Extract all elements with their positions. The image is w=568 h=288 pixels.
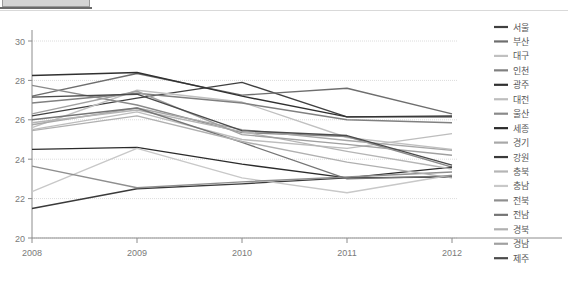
- x-tick-label-2008: 2008: [22, 248, 42, 258]
- legend-label-전남: 전남: [513, 210, 529, 220]
- y-tick-label-28: 28: [15, 76, 25, 86]
- legend-label-서울: 서울: [513, 23, 529, 33]
- legend-item-대전[interactable]: 대전: [494, 95, 529, 105]
- series-line-경기: [32, 108, 452, 150]
- y-tick-label-26: 26: [15, 115, 25, 125]
- legend-item-부산[interactable]: 부산: [494, 37, 529, 47]
- series-line-부산: [32, 74, 452, 114]
- legend-item-인천[interactable]: 인천: [494, 66, 529, 76]
- legend-label-충남: 충남: [513, 181, 529, 191]
- x-tick-label-2011: 2011: [337, 248, 356, 258]
- legend-item-경남[interactable]: 경남: [494, 238, 529, 249]
- legend-label-전북: 전북: [513, 196, 529, 206]
- legend-item-경기[interactable]: 경기: [494, 137, 529, 148]
- legend-item-광주[interactable]: 광주: [494, 79, 529, 90]
- legend-label-제주: 제주: [513, 254, 529, 264]
- toolbar-tab-underline: [0, 7, 92, 9]
- legend-label-경남: 경남: [513, 238, 529, 249]
- legend-label-울산: 울산: [513, 109, 529, 119]
- y-tick-label-30: 30: [15, 37, 25, 47]
- legend-label-경북: 경북: [513, 224, 529, 235]
- legend-label-충북: 충북: [513, 167, 529, 177]
- legend-label-인천: 인천: [513, 66, 529, 76]
- line-chart-container: 202224262830 20082009201020112012 서울부산대구…: [0, 11, 568, 288]
- x-axis-tick-labels: 20082009201020112012: [22, 248, 462, 258]
- x-tick-label-2009: 2009: [127, 248, 147, 258]
- line-chart-svg: 202224262830 20082009201020112012 서울부산대구…: [0, 11, 568, 288]
- legend-item-충남[interactable]: 충남: [494, 181, 529, 191]
- legend-item-전북[interactable]: 전북: [494, 196, 529, 206]
- y-axis-tick-labels: 202224262830: [15, 37, 25, 244]
- legend-label-대구: 대구: [513, 51, 529, 61]
- y-tick-label-24: 24: [15, 155, 25, 165]
- axes: [28, 30, 562, 243]
- legend-item-경북[interactable]: 경북: [494, 224, 529, 235]
- legend-label-강원: 강원: [513, 153, 529, 163]
- toolbar-tab-chip[interactable]: [2, 0, 90, 7]
- window-top-strip: [0, 0, 568, 11]
- legend-label-부산: 부산: [513, 37, 529, 47]
- legend-item-울산[interactable]: 울산: [494, 109, 529, 119]
- chart-legend: 서울부산대구인천광주대전울산세종경기강원충북충남전북전남경북경남제주: [494, 23, 529, 264]
- x-tick-label-2012: 2012: [442, 248, 462, 258]
- series-line-경남: [32, 91, 452, 155]
- legend-item-세종[interactable]: 세종: [494, 124, 529, 134]
- series-line-세종: [32, 147, 452, 178]
- legend-label-대전: 대전: [513, 95, 529, 105]
- legend-item-충북[interactable]: 충북: [494, 167, 529, 177]
- legend-label-세종: 세종: [513, 124, 529, 134]
- legend-item-대구[interactable]: 대구: [494, 51, 529, 61]
- legend-item-제주[interactable]: 제주: [494, 254, 529, 264]
- y-tick-label-22: 22: [15, 194, 25, 204]
- legend-label-경기: 경기: [513, 137, 529, 148]
- legend-item-서울[interactable]: 서울: [494, 23, 529, 33]
- legend-label-광주: 광주: [513, 79, 529, 90]
- series-line-충남: [32, 148, 452, 192]
- y-tick-label-20: 20: [15, 234, 25, 244]
- legend-item-전남[interactable]: 전남: [494, 210, 529, 220]
- legend-item-강원[interactable]: 강원: [494, 153, 529, 163]
- series-line-울산: [32, 85, 452, 167]
- x-tick-label-2010: 2010: [232, 248, 252, 258]
- series-lines: [32, 73, 452, 209]
